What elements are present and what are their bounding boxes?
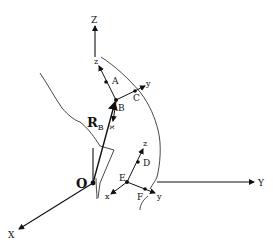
local-z-label-B: z: [94, 57, 98, 66]
local-frame-E: [111, 149, 155, 194]
position-vector-label: RB: [87, 115, 104, 132]
origin-label: O: [76, 176, 87, 191]
label-A: A: [111, 76, 119, 86]
z-axis-label: Z: [91, 15, 97, 25]
position-vector-symbol: R: [87, 115, 98, 130]
local-x-label-B: x: [108, 125, 117, 130]
x-axis-label: X: [8, 230, 15, 240]
point-D: [136, 160, 140, 164]
local-y-label-B: y: [145, 79, 151, 88]
label-B: B: [118, 103, 125, 113]
point-E: [125, 180, 129, 184]
point-B: [114, 98, 118, 102]
point-F: [143, 187, 147, 191]
local-z-label-E: z: [143, 139, 147, 148]
label-D: D: [143, 158, 150, 168]
label-C: C: [133, 93, 140, 103]
local-x-axis-E: [111, 182, 127, 194]
label-F: F: [137, 192, 143, 202]
position-vector-subscript: B: [98, 123, 104, 132]
local-y-label-E: y: [156, 192, 162, 201]
y-axis-label: Y: [257, 178, 265, 188]
local-z-axis-E: [127, 149, 143, 182]
left-surface-lower-curve: [96, 178, 97, 199]
label-E: E: [119, 173, 126, 183]
origin-point: [91, 181, 96, 186]
point-A: [104, 80, 108, 84]
local-x-label-E: x: [105, 192, 110, 201]
surface-outline: [40, 57, 160, 210]
coordinate-frames-diagram: X Y Z O RB A B C z y x D E F z y x: [0, 0, 273, 243]
